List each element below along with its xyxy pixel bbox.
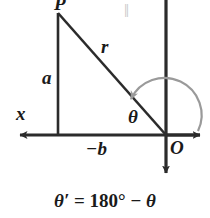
- label-leg-a: a: [42, 68, 52, 87]
- equation-lhs: θ′: [54, 190, 69, 211]
- triangle-hypotenuse-r: [58, 13, 166, 135]
- diagram-canvas: [0, 0, 210, 218]
- label-point-p: P: [54, 0, 66, 13]
- reference-angle-diagram: P r a x θ −b O ‖ θ′ = 180° − θ: [0, 0, 210, 218]
- label-axis-x: x: [16, 104, 26, 123]
- label-hypotenuse-r: r: [101, 37, 108, 56]
- parallel-mark-icon: ‖: [124, 2, 130, 20]
- equation-theta: θ: [146, 190, 156, 211]
- label-angle-theta: θ: [128, 107, 138, 126]
- equation-minus: −: [130, 190, 141, 211]
- reference-angle-equation: θ′ = 180° − θ: [0, 190, 210, 212]
- equation-degrees: 180°: [90, 190, 126, 211]
- label-origin-o: O: [170, 138, 184, 157]
- equation-equals: =: [74, 190, 85, 211]
- right-triangle: [58, 13, 166, 135]
- label-leg-negative-b: −b: [86, 139, 107, 158]
